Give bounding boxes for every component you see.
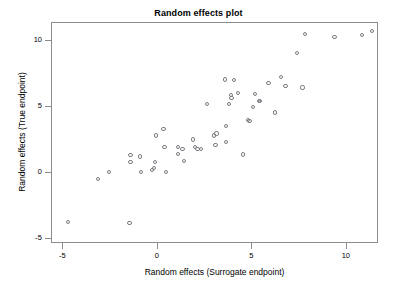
scatter-point: [213, 143, 217, 147]
scatter-point: [236, 91, 240, 95]
scatter-point: [180, 147, 184, 151]
scatter-point: [96, 177, 100, 181]
scatter-point: [247, 119, 251, 123]
scatter-point: [229, 96, 233, 100]
x-axis-title: Random effects (Surrogate endpoint): [51, 267, 378, 277]
scatter-point: [266, 81, 270, 85]
x-tick-label: 10: [326, 251, 366, 260]
scatter-point: [224, 140, 228, 144]
scatter-point: [199, 147, 203, 151]
scatter-point: [191, 137, 195, 141]
x-tick-label: 5: [231, 251, 271, 260]
y-tick-mark: [45, 238, 51, 239]
scatter-point: [251, 105, 255, 109]
scatter-point: [176, 152, 180, 156]
scatter-point: [128, 153, 132, 157]
scatter-point: [152, 166, 156, 170]
scatter-point: [258, 99, 262, 103]
scatter-point: [295, 51, 299, 55]
y-tick-mark: [45, 40, 51, 41]
scatter-point: [283, 84, 287, 88]
scatter-point: [223, 77, 227, 81]
scatter-point: [224, 124, 228, 128]
y-tick-mark: [45, 172, 51, 173]
y-axis-title: Random effects (True endpoint): [17, 17, 27, 247]
random-effects-scatter-figure: Random effects plot -50510 -50510 Random…: [0, 0, 397, 294]
x-tick-label: 0: [137, 251, 177, 260]
plot-area: [51, 22, 378, 243]
scatter-point: [154, 133, 158, 137]
scatter-point: [205, 102, 209, 106]
scatter-point: [241, 152, 245, 156]
scatter-point: [182, 159, 186, 163]
scatter-point: [332, 35, 336, 39]
scatter-point: [127, 221, 131, 225]
scatter-point: [138, 154, 142, 158]
scatter-point: [164, 170, 168, 174]
scatter-point: [303, 32, 307, 36]
scatter-point: [139, 170, 143, 174]
scatter-point: [162, 145, 166, 149]
scatter-point: [176, 145, 180, 149]
y-tick-mark: [45, 106, 51, 107]
scatter-point: [253, 92, 257, 96]
scatter-point: [360, 33, 364, 37]
scatter-point: [161, 127, 165, 131]
x-tick-mark: [346, 243, 347, 249]
scatter-point: [273, 110, 277, 114]
scatter-point: [227, 102, 231, 106]
scatter-point: [66, 220, 70, 224]
x-tick-mark: [62, 243, 63, 249]
scatter-point: [370, 29, 374, 33]
x-tick-mark: [157, 243, 158, 249]
chart-title: Random effects plot: [0, 8, 397, 18]
scatter-point: [279, 75, 283, 79]
scatter-point: [214, 131, 218, 135]
scatter-point: [128, 160, 132, 164]
x-tick-mark: [251, 243, 252, 249]
scatter-point: [153, 160, 157, 164]
scatter-point: [107, 170, 111, 174]
x-tick-label: -5: [42, 251, 82, 260]
scatter-points-layer: [52, 23, 377, 242]
scatter-point: [232, 78, 236, 82]
scatter-point: [300, 85, 304, 89]
